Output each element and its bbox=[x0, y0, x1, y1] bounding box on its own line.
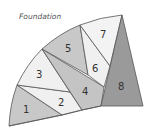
foundation-diagram: 1 2 3 4 5 6 7 8 bbox=[0, 0, 161, 127]
piece-8-label: 8 bbox=[118, 81, 124, 92]
piece-4-label: 4 bbox=[82, 86, 88, 97]
piece-6-label: 6 bbox=[92, 63, 98, 74]
piece-5-label: 5 bbox=[65, 43, 71, 54]
piece-1-label: 1 bbox=[23, 104, 29, 115]
piece-3-label: 3 bbox=[36, 69, 42, 80]
piece-2-label: 2 bbox=[58, 97, 64, 108]
piece-7-label: 7 bbox=[100, 29, 106, 40]
